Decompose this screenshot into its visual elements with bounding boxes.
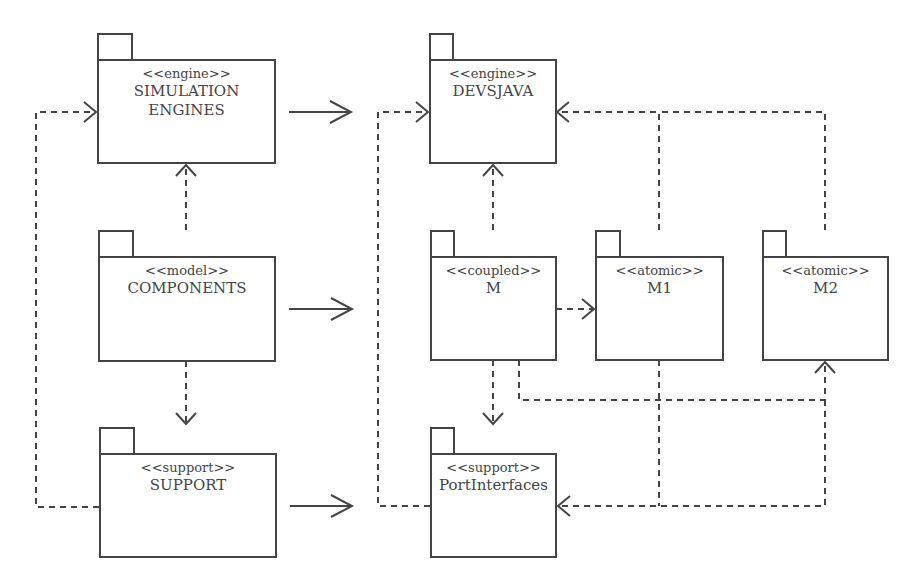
- package-components[interactable]: <<model>> COMPONENTS: [98, 256, 276, 362]
- stereotype-label: <<engine>>: [99, 66, 274, 82]
- package-m2[interactable]: <<atomic>> M2: [762, 256, 889, 361]
- package-tab: [762, 230, 787, 258]
- package-name: M2: [764, 279, 887, 298]
- package-devsjava[interactable]: <<engine>> DEVSJAVA: [429, 59, 557, 164]
- package-name: SIMULATION ENGINES: [99, 82, 274, 120]
- stereotype-label: <<atomic>>: [597, 263, 722, 279]
- package-m[interactable]: <<coupled>> M: [430, 256, 557, 361]
- stereotype-label: <<engine>>: [431, 66, 555, 82]
- package-simulation-engines[interactable]: <<engine>> SIMULATION ENGINES: [97, 59, 276, 164]
- package-tab: [595, 230, 621, 258]
- package-diagram: <<engine>> SIMULATION ENGINES <<model>> …: [0, 0, 920, 582]
- package-name: M: [432, 279, 555, 298]
- package-name: COMPONENTS: [100, 279, 274, 298]
- package-tab: [98, 230, 134, 258]
- package-m1[interactable]: <<atomic>> M1: [595, 256, 724, 361]
- package-tab: [429, 33, 454, 61]
- stereotype-label: <<coupled>>: [432, 263, 555, 279]
- package-name: DEVSJAVA: [431, 82, 555, 101]
- package-tab: [430, 427, 455, 455]
- package-name: PortInterfaces: [432, 476, 555, 495]
- stereotype-label: <<atomic>>: [764, 263, 887, 279]
- stereotype-label: <<support>>: [432, 460, 555, 476]
- stereotype-label: <<support>>: [101, 460, 275, 476]
- package-name: M1: [597, 279, 722, 298]
- package-port-interfaces[interactable]: <<support>> PortInterfaces: [430, 453, 557, 558]
- package-name: SUPPORT: [101, 476, 275, 495]
- package-tab: [99, 427, 135, 455]
- package-support[interactable]: <<support>> SUPPORT: [99, 453, 277, 558]
- package-tab: [97, 33, 133, 61]
- mapping-arrows: [289, 101, 352, 517]
- stereotype-label: <<model>>: [100, 263, 274, 279]
- package-tab: [430, 230, 455, 258]
